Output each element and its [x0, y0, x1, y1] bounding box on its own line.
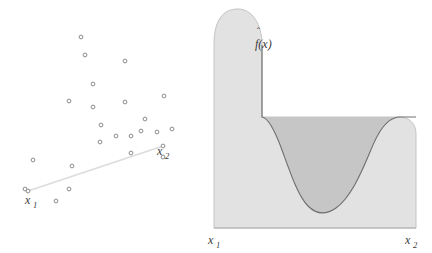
scatter-label-x1: x 1: [24, 193, 37, 210]
scatter-point: [123, 59, 127, 63]
scatter-point: [139, 129, 143, 133]
figure-root: x 1 x 2: [0, 0, 432, 253]
scatter-plot-svg: x 1 x 2: [0, 0, 216, 253]
scatter-point: [114, 134, 118, 138]
density-label-x1-subscript: 1: [216, 240, 220, 250]
scatter-point: [91, 105, 95, 109]
scatter-point: [54, 199, 58, 203]
scatter-label-x2-subscript: 2: [165, 151, 170, 161]
scatter-point: [31, 158, 35, 162]
scatter-point: [162, 94, 166, 98]
scatter-point: [123, 100, 127, 104]
density-label-x1-base: x: [207, 233, 214, 247]
scatter-point: [143, 117, 147, 121]
scatter-point: [170, 127, 174, 131]
scatter-point: [155, 130, 159, 134]
connector-line: [28, 146, 163, 191]
scatter-point: [129, 151, 133, 155]
scatter-point: [129, 134, 133, 138]
density-label-fhat-text: f(x): [255, 37, 272, 51]
density-label-x2-subscript: 2: [413, 240, 418, 250]
scatter-points: [23, 35, 174, 203]
scatter-label-x1-subscript: 1: [33, 200, 37, 210]
scatter-point: [67, 187, 71, 191]
scatter-point: [91, 82, 95, 86]
density-plot-panel: f(x) ̂ x 1 x 2: [200, 0, 432, 253]
scatter-point: [83, 53, 87, 57]
scatter-label-x2-base: x: [156, 144, 163, 158]
scatter-plot-panel: x 1 x 2: [0, 0, 216, 253]
density-plot-svg: f(x) ̂ x 1 x 2: [200, 0, 432, 253]
scatter-label-x1-base: x: [24, 193, 31, 207]
scatter-point: [70, 164, 74, 168]
density-label-x2: x 2: [404, 233, 418, 250]
density-label-x2-base: x: [404, 233, 411, 247]
scatter-point: [99, 123, 103, 127]
scatter-point: [79, 35, 83, 39]
density-label-x1: x 1: [207, 233, 220, 250]
scatter-point: [67, 99, 71, 103]
scatter-point: [98, 140, 102, 144]
